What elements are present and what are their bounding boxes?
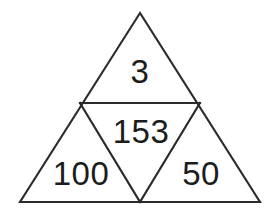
center-triangle-value: 153: [113, 115, 170, 148]
triangle-diagram: 3 153 100 50: [0, 0, 271, 210]
top-triangle-value: 3: [131, 55, 150, 88]
bottom-right-triangle-value: 50: [182, 157, 220, 190]
bottom-left-triangle-value: 100: [53, 157, 110, 190]
triangle-graphic: [0, 0, 271, 210]
